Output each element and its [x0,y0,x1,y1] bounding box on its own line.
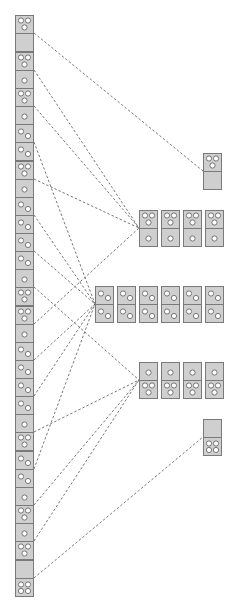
pip-icon [18,365,23,370]
pip-icon [25,588,30,593]
pip-icon [164,291,169,296]
pip-icon [146,236,151,241]
pip-icon [213,156,218,161]
pip-icon [142,291,147,296]
pip-icon [213,447,218,452]
pip-icon [186,291,191,296]
pip-icon [171,313,176,318]
pip-icon [164,309,169,314]
pip-icon [25,508,30,513]
pip-icon [215,383,220,388]
domino-2-2 [16,198,34,234]
domino-3-1 [206,211,224,247]
connector-line [34,380,139,505]
pip-icon [171,295,176,300]
pip-icon [168,390,173,395]
pip-icon [25,164,30,169]
pip-icon [25,151,30,156]
sorted-domino-groups [96,154,224,456]
pip-icon [18,508,23,513]
pip-icon [22,551,27,556]
connector-line [34,304,95,396]
pip-icon [213,441,218,446]
pip-icon [22,332,27,337]
pip-icon [193,313,198,318]
domino-0-4 [16,561,34,597]
pip-icon [146,370,151,375]
domino-3-0 [204,154,222,190]
pip-icon [105,313,110,318]
connector-line [34,106,139,228]
pip-icon [149,213,154,218]
domino-1-3 [16,524,34,560]
domino-2-2 [16,125,34,161]
pip-icon [22,62,27,67]
pip-icon [22,442,27,447]
pip-icon [18,456,23,461]
pip-icon [193,383,198,388]
pip-icon [25,91,30,96]
pip-icon [168,370,173,375]
pip-icon [168,236,173,241]
pip-icon [18,238,23,243]
pip-icon [190,220,195,225]
domino-2-2 [16,343,34,379]
pip-icon [206,156,211,161]
pip-icon [25,18,30,23]
pip-icon [22,277,27,282]
group-3-1 [140,211,224,247]
pip-icon [18,401,23,406]
pip-icon [149,383,154,388]
pip-icon [22,515,27,520]
left-domino-column [16,16,34,597]
pip-icon [190,236,195,241]
domino-3-1 [16,53,34,89]
domino-3-1 [16,162,34,198]
domino-1-3 [184,363,202,399]
domino-sorting-diagram [0,0,238,609]
domino-2-2 [16,234,34,270]
pip-icon [25,351,30,356]
pip-icon [215,313,220,318]
pip-icon [164,383,169,388]
pip-icon [212,390,217,395]
connector-line [34,70,139,228]
pip-icon [25,309,30,314]
pip-icon [18,55,23,60]
pip-icon [146,220,151,225]
domino-1-3 [16,488,34,524]
pip-icon [212,236,217,241]
pip-icon [105,295,110,300]
pip-icon [98,309,103,314]
pip-icon [208,309,213,314]
pip-icon [25,405,30,410]
pip-icon [142,383,147,388]
connector-line [34,304,95,469]
pip-icon [171,213,176,218]
pip-icon [18,435,23,440]
pip-icon [149,295,154,300]
pip-icon [98,291,103,296]
pip-icon [18,588,23,593]
connector-line [34,215,95,304]
domino-2-2 [162,287,180,323]
pip-icon [190,390,195,395]
connector-line [34,33,203,171]
pip-icon [208,291,213,296]
pip-icon [25,260,30,265]
pip-icon [18,164,23,169]
pip-icon [127,313,132,318]
pip-icon [206,447,211,452]
pip-icon [25,460,30,465]
connector-line [34,380,139,432]
pip-icon [22,495,27,500]
pip-icon [22,98,27,103]
connector-line [34,437,203,578]
pip-icon [193,295,198,300]
pip-icon [190,370,195,375]
pip-icon [206,441,211,446]
pip-icon [18,147,23,152]
pip-icon [18,383,23,388]
group-0-4 [204,420,222,456]
pip-icon [215,213,220,218]
